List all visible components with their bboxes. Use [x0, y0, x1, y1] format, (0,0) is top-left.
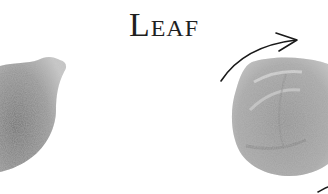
illustration-canvas [0, 0, 328, 194]
left-leaf-sketch [0, 57, 66, 172]
partial-arrow-bottom [318, 187, 328, 192]
right-seed-sketch [232, 58, 328, 177]
